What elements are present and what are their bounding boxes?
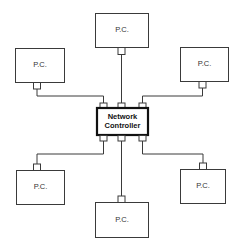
pc-node-top-right: P.C. xyxy=(181,48,229,89)
pc-label: P.C. xyxy=(115,25,129,34)
pc-label: P.C. xyxy=(196,181,210,190)
pc-label: P.C. xyxy=(33,60,47,69)
pc-node-bottom-left: P.C. xyxy=(17,164,65,205)
port-connector xyxy=(200,163,207,170)
wire-top-left xyxy=(37,89,104,103)
network-controller: Network Controller xyxy=(97,103,148,141)
port-connector xyxy=(100,136,107,142)
pc-node-bottom-right: P.C. xyxy=(181,163,226,204)
port-connector xyxy=(34,164,41,171)
wire-top-right xyxy=(143,88,203,103)
port-connector xyxy=(118,196,125,203)
port-connector xyxy=(118,48,125,55)
wire-bottom-left xyxy=(37,141,104,164)
pc-node-top-left: P.C. xyxy=(16,49,65,90)
port-connector xyxy=(118,136,125,142)
network-diagram: P.C. P.C. P.C. Network Controller P.C. P… xyxy=(0,0,236,247)
pc-node-bottom: P.C. xyxy=(96,196,149,238)
port-connector xyxy=(139,136,146,142)
controller-label-line1: Network xyxy=(108,112,138,121)
controller-label-line2: Controller xyxy=(105,121,141,130)
pc-label: P.C. xyxy=(198,59,212,68)
pc-label: P.C. xyxy=(115,215,129,224)
port-connector xyxy=(34,83,41,90)
pc-label: P.C. xyxy=(34,182,48,191)
wire-bottom-right xyxy=(143,141,204,163)
port-connector xyxy=(199,82,206,89)
pc-node-top: P.C. xyxy=(96,14,149,55)
